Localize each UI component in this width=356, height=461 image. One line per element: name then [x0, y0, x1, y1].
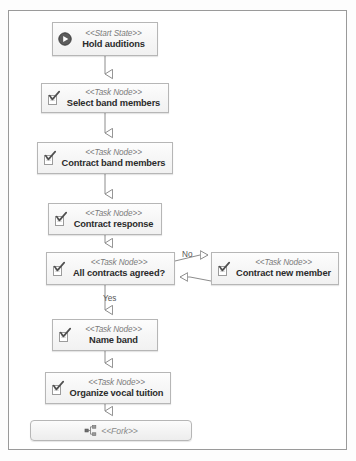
node-all-contracts-agreed-label: All contracts agreed? — [67, 268, 171, 278]
node-hold-auditions[interactable]: <<Start State>> Hold auditions — [52, 22, 158, 56]
node-organize-vocal-tuition-label: Organize vocal tuition — [66, 388, 167, 398]
task-node-check-icon — [42, 150, 58, 166]
node-organize-vocal-tuition[interactable]: <<Task Node>> Organize vocal tuition — [45, 372, 171, 404]
edge-label-yes: Yes — [103, 294, 116, 303]
node-all-contracts-agreed[interactable]: <<Task Node>> All contracts agreed? — [46, 252, 175, 285]
node-select-band-members[interactable]: <<Task Node>> Select band members — [41, 83, 169, 113]
node-name-band-stereotype: <<Task Node>> — [73, 325, 154, 334]
node-name-band-label: Name band — [73, 335, 154, 345]
node-contract-band-members-stereotype: <<Task Node>> — [58, 148, 169, 157]
node-fork-stereotype: <<Fork>> — [101, 426, 137, 436]
diagram-canvas: <<Start State>> Hold auditions <<Task No… — [0, 0, 356, 461]
fork-icon — [84, 424, 97, 437]
node-fork[interactable]: <<Fork>> — [30, 420, 192, 441]
task-node-check-icon — [57, 327, 73, 343]
node-select-band-members-stereotype: <<Task Node>> — [62, 88, 165, 97]
node-contract-band-members-label: Contract band members — [58, 158, 169, 168]
task-node-check-icon — [216, 261, 232, 277]
node-fork-inner: <<Fork>> — [84, 424, 137, 437]
node-name-band[interactable]: <<Task Node>> Name band — [52, 319, 158, 351]
task-node-check-icon — [46, 90, 62, 106]
node-contract-new-member[interactable]: <<Task Node>> Contract new member — [211, 252, 339, 285]
node-contract-new-member-label: Contract new member — [232, 268, 335, 278]
node-contract-response-label: Contract response — [69, 219, 158, 229]
node-select-band-members-label: Select band members — [62, 98, 165, 108]
node-contract-response-stereotype: <<Task Node>> — [69, 209, 158, 218]
node-organize-vocal-tuition-stereotype: <<Task Node>> — [66, 378, 167, 387]
node-contract-response[interactable]: <<Task Node>> Contract response — [48, 203, 162, 235]
task-node-check-icon — [50, 380, 66, 396]
start-state-play-icon — [57, 31, 73, 47]
task-node-check-icon — [51, 261, 67, 277]
node-hold-auditions-label: Hold auditions — [73, 39, 154, 49]
task-node-check-icon — [53, 211, 69, 227]
node-contract-new-member-stereotype: <<Task Node>> — [232, 258, 335, 267]
node-hold-auditions-stereotype: <<Start State>> — [73, 29, 154, 38]
edge-label-no: No — [182, 250, 192, 259]
node-contract-band-members[interactable]: <<Task Node>> Contract band members — [37, 142, 173, 174]
node-contract-band-members-text: <<Task Node>> Contract band members — [38, 148, 172, 169]
node-all-contracts-agreed-stereotype: <<Task Node>> — [67, 258, 171, 267]
